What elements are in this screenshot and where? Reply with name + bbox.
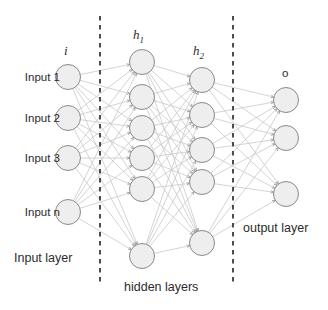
neuron-hidden2-5 bbox=[190, 231, 215, 256]
edge-hidden2-output bbox=[213, 106, 276, 143]
neuron-hidden2-3 bbox=[190, 138, 215, 163]
edge-hidden1-hidden2 bbox=[154, 83, 190, 93]
caption-output-layer: output layer bbox=[243, 222, 308, 235]
input-node-label-n: Input n bbox=[8, 207, 60, 219]
edge-input-hidden1 bbox=[80, 64, 130, 74]
input-node-label-1: Input 1 bbox=[8, 72, 60, 84]
caption-input-layer: Input layer bbox=[14, 252, 72, 265]
neuron-hidden1-2 bbox=[130, 85, 155, 110]
layer-title-output: o bbox=[282, 68, 288, 80]
edge-input-hidden1 bbox=[74, 129, 136, 245]
layer-title-hidden1-sub: 1 bbox=[140, 35, 145, 45]
layer-title-hidden2-sub: 2 bbox=[200, 51, 205, 61]
edge-input-hidden1 bbox=[80, 193, 130, 209]
edge-hidden2-output bbox=[209, 90, 278, 184]
neuron-hidden1-4 bbox=[130, 146, 155, 171]
neuron-hidden1-6 bbox=[130, 244, 155, 269]
input-node-label-2: Input 2 bbox=[8, 113, 60, 125]
input-node-label-3: Input 3 bbox=[8, 153, 60, 165]
edge-input-hidden1 bbox=[79, 218, 132, 249]
neuron-hidden1-3 bbox=[130, 116, 155, 141]
edge-hidden2-output bbox=[214, 102, 273, 113]
edge-hidden2-output bbox=[212, 87, 275, 131]
caption-hidden-layers: hidden layers bbox=[124, 281, 198, 294]
neuron-hidden1-5 bbox=[130, 177, 155, 202]
neuron-output-2 bbox=[274, 126, 299, 151]
neuron-hidden2-4 bbox=[190, 170, 215, 195]
edge-hidden1-hidden2 bbox=[154, 66, 190, 77]
edge-hidden1-hidden2 bbox=[154, 246, 190, 254]
edge-input-hidden1 bbox=[74, 73, 137, 201]
edge-input-hidden1 bbox=[78, 70, 132, 111]
neuron-hidden2-1 bbox=[190, 68, 215, 93]
layer-title-hidden1: h1 bbox=[133, 28, 144, 45]
neuron-output-3 bbox=[274, 182, 299, 207]
layer-title-hidden2: h2 bbox=[193, 44, 204, 61]
neuron-output-1 bbox=[274, 88, 299, 113]
neuron-hidden1-1 bbox=[130, 50, 155, 75]
edge-hidden1-hidden2 bbox=[154, 163, 191, 178]
network-diagram-canvas: Input 1 Input 2 Input 3 Input n i h1 h2 … bbox=[0, 0, 328, 310]
edge-input-hidden1 bbox=[78, 165, 132, 204]
layer-title-input: i bbox=[64, 44, 68, 57]
neuron-hidden2-2 bbox=[190, 103, 215, 128]
